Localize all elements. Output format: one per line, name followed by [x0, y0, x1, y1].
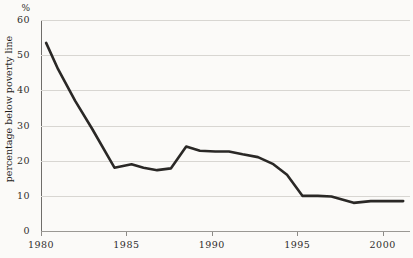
series-line-layer	[0, 0, 413, 258]
series-line-poverty	[46, 43, 403, 203]
poverty-line-chart: % percentage below poverty line 01020304…	[0, 0, 413, 258]
x-axis-line	[41, 231, 410, 232]
